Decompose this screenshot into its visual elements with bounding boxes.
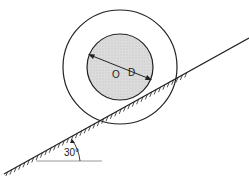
center-label: O [112,69,120,80]
angle-arc-arrowhead [70,139,75,143]
angle-label: 30° [64,147,79,158]
diameter-label: D [128,67,135,78]
diagram-canvas: O D 30° [0,0,249,176]
